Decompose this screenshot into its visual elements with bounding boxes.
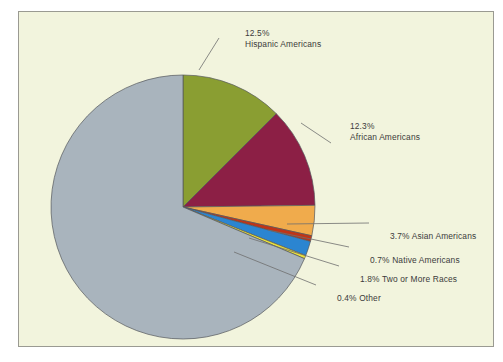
leader-line-hispanic bbox=[199, 38, 219, 70]
slice-name-african: African Americans bbox=[350, 132, 420, 143]
slice-label-other: 0.4% Other bbox=[337, 293, 381, 304]
slice-label-two-or-more: 1.8% Two or More Races bbox=[360, 274, 457, 285]
slice-label-native: 0.7% Native Americans bbox=[370, 255, 460, 266]
slice-percent-african: 12.3% bbox=[350, 121, 420, 132]
slice-percent-hispanic: 12.5% bbox=[245, 28, 321, 39]
pie-chart bbox=[19, 12, 494, 347]
slice-label-hispanic: 12.5% Hispanic Americans bbox=[245, 28, 321, 51]
slice-label-asian: 3.7% Asian Americans bbox=[390, 231, 476, 242]
leader-line-african bbox=[301, 123, 331, 143]
slice-name-hispanic: Hispanic Americans bbox=[245, 39, 321, 50]
slice-label-african: 12.3% African Americans bbox=[350, 121, 420, 144]
pie-slice-group bbox=[51, 75, 315, 339]
chart-frame: 12.5% Hispanic Americans 12.3% African A… bbox=[18, 11, 494, 347]
